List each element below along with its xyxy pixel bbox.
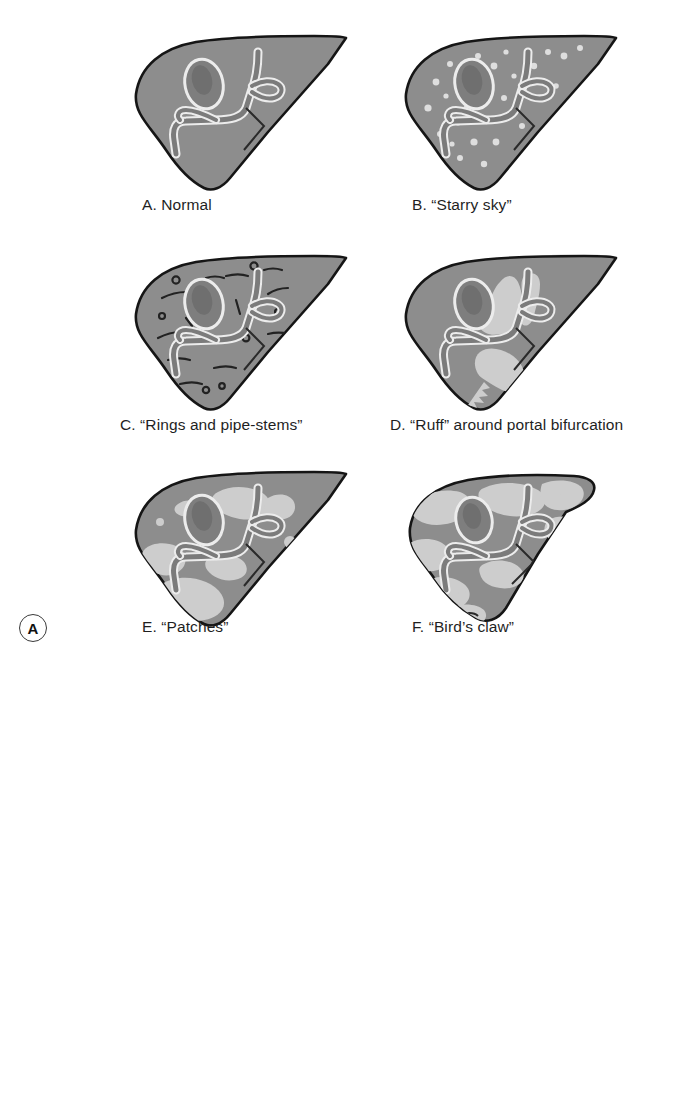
liver-svg-patches: [118, 458, 358, 638]
panel-a-liver-patterns: A. Normal: [0, 0, 697, 660]
caption-rings-pipe-stems: C. “Rings and pipe-stems”: [120, 416, 303, 434]
liver-svg-starry-sky: [388, 22, 628, 202]
liver-svg-rings-pipe-stems: [118, 242, 358, 422]
caption-ruff: D. “Ruff” around portal bifurcation: [390, 416, 623, 434]
liver-figure-rings-pipe-stems: [118, 242, 358, 422]
caption-patches: E. “Patches”: [142, 618, 228, 636]
panel-c-cross-sections: 1.0 cm Score = 0 Score =: [0, 880, 697, 1113]
liver-svg-birds-claw: [388, 458, 628, 638]
panel-tag-a: A: [19, 614, 47, 642]
liver-figure-birds-claw: [388, 458, 628, 638]
liver-figure-ruff: [388, 242, 628, 422]
fissure-mark: [534, 569, 554, 572]
liver-figure-starry-sky: [388, 22, 628, 202]
liver-svg-normal: [118, 22, 358, 202]
caption-starry-sky: B. “Starry sky”: [412, 196, 512, 214]
caption-birds-claw: F. “Bird’s claw”: [412, 618, 514, 636]
caption-normal: A. Normal: [142, 196, 212, 214]
panel-b-wall-profile-chart: 2.0 cm 1.5 cm 1.0 cm 0.5 cm 0.0 cm: [0, 660, 697, 880]
liver-figure-normal: [118, 22, 358, 202]
liver-figure-patches: [118, 458, 358, 638]
liver-svg-ruff: [388, 242, 628, 422]
